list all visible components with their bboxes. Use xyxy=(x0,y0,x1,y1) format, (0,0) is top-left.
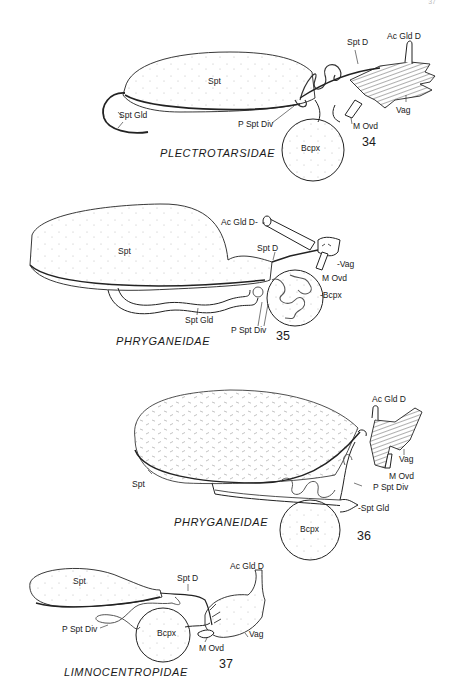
figure-36-drawing xyxy=(0,350,450,560)
label-p-spt-div: P Spt Div xyxy=(231,326,266,335)
label-ac-gld-d: Ac Gld D- xyxy=(221,218,258,227)
label-spt: Spt xyxy=(73,577,86,586)
figure-34: Spt Spt Gld Spt D Ac Gld D Vag M Ovd P S… xyxy=(0,0,450,180)
figure-37: Spt Spt D Ac Gld D P Spt Div Bcpx Vag M … xyxy=(0,555,450,679)
label-spt: Spt xyxy=(118,247,131,256)
label-ac-gld-d: Ac Gld D xyxy=(387,32,421,41)
label-p-spt-div: P Spt Div xyxy=(373,483,408,492)
label-spt: Spt xyxy=(208,77,221,86)
family-name: LIMNOCENTROPIDAE xyxy=(64,667,188,678)
label-ac-gld-d: Ac Gld D xyxy=(230,562,264,571)
label-spt: Spt xyxy=(132,480,145,489)
label-spt-d: Spt D xyxy=(177,574,198,583)
label-m-ovd: M Ovd xyxy=(199,644,224,653)
label-m-ovd: M Ovd xyxy=(353,122,378,131)
family-name: PLECTROTARSIDAE xyxy=(160,148,275,159)
figure-number: 35 xyxy=(276,330,290,343)
figure-35-drawing xyxy=(0,180,450,350)
label-spt-d: Spt D xyxy=(347,38,368,47)
label-vag: Vag xyxy=(399,455,414,464)
label-vag: Vag xyxy=(249,630,264,639)
label-spt-d: Spt D xyxy=(257,244,278,253)
family-name: PHRYGANEIDAE xyxy=(174,517,268,528)
figure-36: Ac Gld D Vag M Ovd Spt P Spt Div -Spt Gl… xyxy=(0,350,450,560)
label-m-ovd: M Ovd xyxy=(322,274,347,283)
label-m-ovd: M Ovd xyxy=(389,472,414,481)
label-p-spt-div: P Spt Div xyxy=(62,625,97,634)
label-spt-gld: Spt Gld xyxy=(185,316,213,325)
label-vag: -Vag xyxy=(337,260,354,269)
label-p-spt-div: P Spt Div xyxy=(238,120,273,129)
label-spt-gld: Spt Gld xyxy=(119,111,147,120)
label-spt-gld: -Spt Gld xyxy=(358,504,389,513)
figure-number: 37 xyxy=(219,658,233,671)
label-ac-gld-d: Ac Gld D xyxy=(372,395,406,404)
label-vag: Vag xyxy=(396,106,411,115)
label-bcpx: Bcpx xyxy=(157,629,176,638)
figure-number: 36 xyxy=(357,530,371,543)
label-bcpx: Bcpx xyxy=(301,144,320,153)
figure-35: Spt Ac Gld D- Spt D -Vag M Ovd -Bcpx Spt… xyxy=(0,180,450,350)
label-bcpx: -Bcpx xyxy=(320,291,342,300)
figure-number: 34 xyxy=(362,136,376,149)
family-name: PHRYGANEIDAE xyxy=(116,336,210,347)
label-bcpx: Bcpx xyxy=(300,525,319,534)
